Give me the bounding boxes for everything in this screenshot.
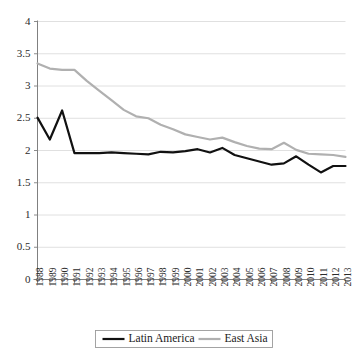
y-axis-tick-label: 3.5 — [17, 47, 31, 59]
y-axis-tick-label: 0.5 — [17, 240, 31, 252]
x-axis-tick-label: 1990 — [60, 267, 70, 286]
x-axis-ticks: 1988198919901991199219931994199519961997… — [35, 267, 353, 286]
x-axis-tick-label: 2008 — [282, 267, 292, 286]
x-axis-tick-label: 2007 — [269, 267, 279, 286]
x-axis-tick-label: 2010 — [306, 267, 316, 286]
line-chart: 00.511.522.533.5419881989199019911992199… — [0, 0, 356, 353]
x-axis-tick-label: 2009 — [294, 267, 304, 286]
series-line-east-asia — [38, 63, 346, 157]
chart-legend: Latin AmericaEast Asia — [96, 331, 273, 348]
x-axis-tick-label: 2003 — [220, 267, 230, 286]
x-axis-tick-label: 2011 — [319, 268, 329, 287]
x-axis-tick-label: 1991 — [72, 267, 82, 286]
x-axis-tick-label: 2012 — [331, 267, 341, 286]
x-axis-tick-label: 1996 — [134, 267, 144, 286]
y-axis-tick-label: 1 — [25, 208, 31, 220]
y-axis-tick-label: 4 — [25, 15, 31, 27]
legend-label-east-asia: East Asia — [225, 332, 268, 344]
x-axis-tick-label: 1995 — [122, 267, 132, 286]
y-axis-tick-label: 2 — [25, 144, 31, 156]
y-axis-tick-label: 2.5 — [17, 111, 31, 123]
x-axis-tick-label: 1989 — [48, 267, 58, 286]
x-axis-tick-label: 1994 — [109, 267, 119, 286]
x-axis-tick-label: 1992 — [85, 267, 95, 286]
x-axis-tick-label: 2000 — [183, 267, 193, 286]
series-line-latin-america — [38, 111, 346, 173]
chart-canvas: 00.511.522.533.5419881989199019911992199… — [0, 0, 356, 353]
x-axis-tick-label: 1998 — [158, 267, 168, 286]
x-axis-tick-label: 1999 — [171, 267, 181, 286]
y-axis-tick-label: 0 — [25, 273, 31, 285]
y-axis-tick-label: 1.5 — [17, 176, 31, 188]
x-axis-tick-label: 1993 — [97, 267, 107, 286]
y-axis-tick-label: 3 — [25, 79, 31, 91]
x-axis-tick-label: 2002 — [208, 267, 218, 286]
x-axis-tick-label: 1997 — [146, 267, 156, 286]
legend-label-latin-america: Latin America — [129, 332, 195, 344]
x-axis-tick-label: 2004 — [232, 267, 242, 286]
x-axis-tick-label: 2005 — [245, 267, 255, 286]
x-axis-tick-label: 2013 — [343, 267, 353, 286]
x-axis-tick-label: 1988 — [35, 267, 45, 286]
x-axis-tick-label: 2006 — [257, 267, 267, 286]
x-axis-tick-label: 2001 — [195, 267, 205, 286]
